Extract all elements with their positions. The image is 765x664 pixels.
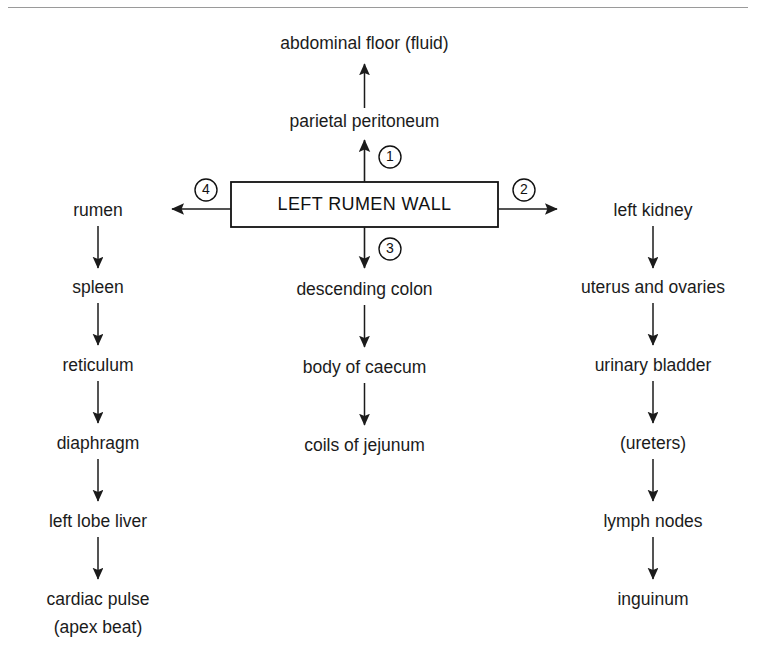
node-lymph-nodes: lymph nodes <box>603 511 702 531</box>
marker-label-4: 4 <box>202 181 210 197</box>
node-rumen: rumen <box>73 200 123 220</box>
node-left-lobe-liver: left lobe liver <box>49 511 147 531</box>
node-reticulum: reticulum <box>63 355 134 375</box>
marker-label-2: 2 <box>520 181 528 197</box>
node-body-of-caecum: body of caecum <box>303 357 427 377</box>
flow-diagram-canvas: LEFT RUMEN WALL 1 parietal peritoneum ab… <box>0 0 765 664</box>
flow-diagram-svg: LEFT RUMEN WALL 1 parietal peritoneum ab… <box>0 0 765 664</box>
marker-label-3: 3 <box>386 240 394 256</box>
node-cardiac-pulse: cardiac pulse <box>46 589 149 609</box>
node-uterus-and-ovaries: uterus and ovaries <box>581 277 725 297</box>
node-inguinum: inguinum <box>617 589 688 609</box>
marker-label-1: 1 <box>386 148 394 164</box>
center-box-label: LEFT RUMEN WALL <box>277 194 451 214</box>
node-coils-of-jejunum: coils of jejunum <box>304 435 425 455</box>
node-diaphragm: diaphragm <box>57 433 140 453</box>
node-abdominal-floor: abdominal floor (fluid) <box>280 33 448 53</box>
node-urinary-bladder: urinary bladder <box>595 355 712 375</box>
node-left-kidney: left kidney <box>614 200 693 220</box>
node-descending-colon: descending colon <box>296 279 432 299</box>
node-spleen: spleen <box>72 277 124 297</box>
node-ureters: (ureters) <box>620 433 686 453</box>
node-parietal-peritoneum: parietal peritoneum <box>290 111 440 131</box>
node-cardiac-pulse-line2: (apex beat) <box>54 617 143 637</box>
